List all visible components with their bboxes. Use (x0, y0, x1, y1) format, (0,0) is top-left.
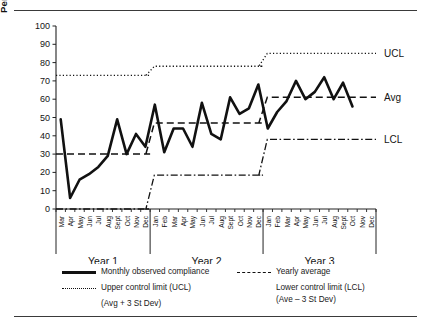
y-axis-tick-label: 70 (40, 76, 50, 86)
y-axis-tick-label: 40 (40, 131, 50, 141)
y-axis-tick-label: 0 (45, 204, 50, 214)
x-axis-month-label: Oct (237, 216, 244, 226)
legend-item-observed: Monthly observed compliance (62, 267, 209, 283)
x-axis-month-label: Dec (368, 215, 375, 227)
x-axis-month-label: Jun (199, 216, 206, 227)
legend-label-lcl: Lower control limit (LCL) (276, 283, 365, 294)
x-axis-month-label: Dec (255, 215, 262, 227)
x-axis-month-label: Aug (331, 216, 339, 228)
x-axis-month-label: Jul (95, 215, 102, 224)
legend-swatch-dash-dot-line-icon (237, 288, 271, 289)
y-axis-tick-label: 60 (40, 94, 50, 104)
x-axis-month-label: May (302, 215, 310, 228)
top-rule (14, 10, 417, 11)
y-axis-tick-label: 50 (40, 113, 50, 123)
legend-sublabel-lcl: (Ave – 3 St Dev) (276, 294, 336, 305)
series-line-dashed (56, 97, 376, 154)
x-axis-month-label: Jul (321, 215, 328, 224)
line-chart: 0102030405060708090100UCLAvgLCLMarAprMay… (0, 14, 431, 264)
x-axis-month-label: Nov (359, 215, 366, 227)
x-axis-month-label: Jan (152, 216, 159, 227)
y-axis-tick-label: 90 (40, 39, 50, 49)
x-axis-month-label: Sept (114, 216, 122, 230)
plot-area: Percentage Compliance 010203040506070809… (0, 14, 431, 264)
year-group-label-2: Year 2 (192, 255, 222, 264)
right-label-avg: Avg (384, 92, 401, 103)
year-group-label-1: Year 1 (88, 255, 118, 264)
legend-item-average: Yearly average (237, 267, 330, 282)
legend-item-lcl: Lower control limit (LCL) (Ave – 3 St De… (237, 283, 365, 305)
x-axis-month-label: May (189, 215, 197, 228)
x-axis-month-label: Jun (86, 216, 93, 227)
y-axis-tick-label: 30 (40, 149, 50, 159)
x-axis-month-label: Aug (105, 216, 113, 228)
x-axis-month-label: May (77, 215, 85, 228)
x-axis-month-label: Aug (218, 216, 226, 228)
y-axis-tick-label: 100 (35, 21, 50, 31)
right-label-ucl: UCL (384, 48, 404, 59)
y-axis-tick-label: 20 (40, 167, 50, 177)
legend-label-observed: Monthly observed compliance (101, 267, 209, 278)
x-axis-month-label: Mar (58, 215, 65, 227)
x-axis-month-label: Nov (246, 215, 253, 227)
legend-label-ucl: Upper control limit (UCL) (101, 283, 191, 294)
legend-sublabel-ucl: (Avg + 3 St Dev) (101, 298, 161, 309)
chart-legend: Monthly observed compliance Yearly avera… (0, 264, 431, 316)
x-axis-month-label: Oct (349, 216, 356, 226)
x-axis-month-label: Jun (312, 216, 319, 227)
legend-item-ucl: Upper control limit (UCL) (Avg + 3 St De… (62, 283, 191, 309)
right-label-lcl: LCL (384, 134, 403, 145)
legend-label-average: Yearly average (276, 267, 330, 278)
y-axis-tick-label: 10 (40, 186, 50, 196)
x-axis-month-label: Nov (133, 215, 140, 227)
x-axis-month-label: Sept (227, 216, 235, 230)
bottom-rule (14, 316, 417, 317)
x-axis-month-label: Jan (265, 216, 272, 227)
x-axis-month-label: Feb (161, 216, 168, 228)
x-axis-month-label: Mar (284, 215, 291, 227)
x-axis-month-label: Oct (124, 216, 131, 226)
year-group-label-3: Year 3 (305, 255, 335, 264)
y-axis-tick-label: 80 (40, 58, 50, 68)
series-line-dash-dot (56, 139, 376, 209)
x-axis-month-label: Sept (340, 216, 348, 230)
legend-swatch-dotted-line-icon (62, 288, 96, 299)
x-axis-month-label: Feb (274, 216, 281, 228)
x-axis-month-label: Apr (67, 215, 75, 226)
series-line-dotted (56, 53, 376, 75)
legend-swatch-dashed-line-icon (237, 272, 271, 283)
x-axis-month-label: Apr (180, 215, 188, 226)
x-axis-month-label: Jul (208, 215, 215, 224)
x-axis-month-label: Dec (142, 215, 149, 227)
series-line-observed (61, 77, 353, 198)
x-axis-month-label: Mar (171, 215, 178, 227)
x-axis-month-label: Apr (293, 215, 301, 226)
figure-container: Percentage Compliance 010203040506070809… (0, 0, 431, 328)
